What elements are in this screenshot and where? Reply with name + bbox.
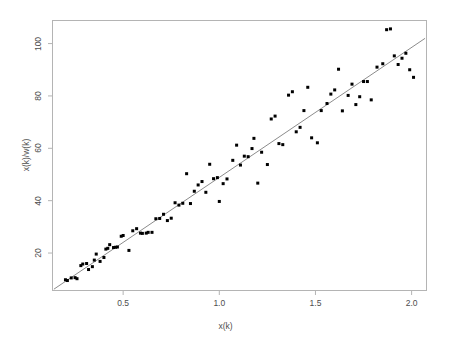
data-point bbox=[341, 109, 344, 112]
data-point bbox=[385, 28, 388, 31]
data-point bbox=[362, 80, 365, 83]
data-point bbox=[354, 103, 357, 106]
data-point bbox=[122, 234, 125, 237]
y-axis-title: x(k)/w(k) bbox=[21, 139, 31, 172]
data-point bbox=[270, 117, 273, 120]
y-tick-label: 80 bbox=[33, 91, 43, 100]
data-point bbox=[204, 191, 207, 194]
data-point bbox=[158, 217, 161, 220]
data-point bbox=[151, 231, 154, 234]
data-point bbox=[256, 182, 259, 185]
data-point bbox=[235, 144, 238, 147]
data-point bbox=[131, 229, 134, 232]
data-point bbox=[389, 27, 392, 30]
y-tick-label: 20 bbox=[33, 248, 43, 257]
data-point bbox=[404, 52, 407, 55]
data-point bbox=[333, 88, 336, 91]
x-tick-label: 1.0 bbox=[213, 298, 225, 308]
data-point bbox=[251, 147, 254, 150]
data-point bbox=[370, 98, 373, 101]
data-point bbox=[216, 176, 219, 179]
data-point bbox=[397, 63, 400, 66]
data-point bbox=[412, 76, 415, 79]
data-point bbox=[99, 260, 102, 263]
data-point bbox=[106, 247, 109, 250]
data-point bbox=[337, 68, 340, 71]
data-point bbox=[85, 262, 88, 265]
data-point bbox=[401, 57, 404, 60]
data-point bbox=[243, 155, 246, 158]
data-point bbox=[218, 200, 221, 203]
data-point bbox=[226, 177, 229, 180]
data-point bbox=[277, 142, 280, 145]
y-tick-label: 60 bbox=[33, 144, 43, 153]
data-point bbox=[347, 94, 350, 97]
data-point bbox=[76, 277, 79, 280]
data-point bbox=[320, 109, 323, 112]
data-point bbox=[222, 182, 225, 185]
data-point bbox=[281, 143, 284, 146]
data-point bbox=[376, 66, 379, 69]
data-point bbox=[381, 62, 384, 65]
x-tick-label: 2.0 bbox=[406, 298, 418, 308]
plot-canvas bbox=[0, 0, 451, 346]
data-point bbox=[231, 159, 234, 162]
data-point bbox=[326, 102, 329, 105]
data-point bbox=[393, 54, 396, 57]
data-point bbox=[247, 155, 250, 158]
data-point bbox=[239, 164, 242, 167]
data-point bbox=[287, 94, 290, 97]
data-point bbox=[252, 137, 255, 140]
data-point bbox=[266, 163, 269, 166]
data-point bbox=[66, 279, 69, 282]
scatter-plot-figure: 0.51.01.52.0 20406080100 x(k) x(k)/w(k) bbox=[0, 0, 451, 346]
data-point bbox=[154, 217, 157, 220]
data-point bbox=[193, 190, 196, 193]
data-point bbox=[166, 219, 169, 222]
data-point bbox=[212, 177, 215, 180]
data-point bbox=[329, 93, 332, 96]
data-point bbox=[95, 253, 98, 256]
data-point bbox=[358, 95, 361, 98]
data-point bbox=[291, 90, 294, 93]
data-point bbox=[260, 151, 263, 154]
x-tick-label: 0.5 bbox=[117, 298, 129, 308]
data-point bbox=[135, 227, 138, 230]
data-point bbox=[87, 268, 90, 271]
data-point bbox=[127, 249, 130, 252]
data-point bbox=[316, 141, 319, 144]
data-point bbox=[351, 83, 354, 86]
y-tick-label: 100 bbox=[33, 36, 43, 50]
data-point bbox=[189, 202, 192, 205]
data-point bbox=[93, 259, 96, 262]
data-point bbox=[170, 217, 173, 220]
data-point bbox=[366, 80, 369, 83]
data-point bbox=[108, 243, 111, 246]
data-point bbox=[408, 68, 411, 71]
data-point bbox=[295, 130, 298, 133]
data-point bbox=[274, 115, 277, 118]
data-point bbox=[208, 163, 211, 166]
data-point bbox=[102, 256, 105, 259]
data-point bbox=[70, 276, 73, 279]
data-point bbox=[162, 213, 165, 216]
data-point bbox=[174, 201, 177, 204]
data-point bbox=[185, 172, 188, 175]
data-point bbox=[91, 265, 94, 268]
data-point bbox=[147, 231, 150, 234]
data-point bbox=[81, 263, 84, 266]
data-point bbox=[181, 202, 184, 205]
data-point bbox=[310, 136, 313, 139]
data-point bbox=[299, 126, 302, 129]
data-point bbox=[197, 183, 200, 186]
data-point bbox=[201, 180, 204, 183]
data-point bbox=[116, 246, 119, 249]
x-axis-title: x(k) bbox=[0, 321, 451, 331]
x-tick-label: 1.5 bbox=[310, 298, 322, 308]
data-point bbox=[302, 109, 305, 112]
data-point bbox=[141, 232, 144, 235]
data-point bbox=[177, 204, 180, 207]
data-points-group bbox=[64, 27, 415, 282]
y-tick-label: 40 bbox=[33, 196, 43, 205]
data-point bbox=[306, 86, 309, 89]
